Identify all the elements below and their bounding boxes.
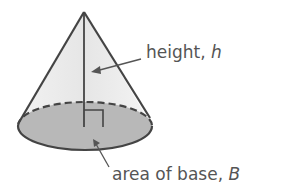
- height-label: height, h: [146, 42, 222, 62]
- height-variable: h: [211, 42, 222, 62]
- base-variable: B: [228, 164, 240, 184]
- height-label-text: height,: [146, 42, 211, 62]
- base-label-text: area of base,: [112, 164, 228, 184]
- base-label: area of base, B: [112, 164, 240, 184]
- cone-diagram: [0, 0, 290, 190]
